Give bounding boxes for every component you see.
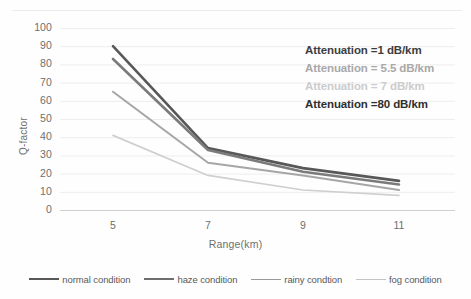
legend-swatch-icon	[29, 278, 59, 280]
legend-label: haze condition	[177, 274, 237, 285]
legend-swatch-icon	[144, 278, 174, 280]
x-axis-title: Range(km)	[0, 238, 471, 250]
plot-area: 1009080706050403020100 57911 Attenuation…	[0, 0, 471, 262]
y-axis-tick-label: 60	[26, 94, 52, 106]
legend-label: fog condition	[389, 274, 442, 285]
attenuation-annotation: Attenuation =1 dB/km	[305, 44, 422, 56]
x-axis-tick-label: 11	[382, 219, 416, 231]
y-axis-tick-label: 20	[26, 167, 52, 179]
legend-item[interactable]: haze condition	[144, 274, 237, 285]
legend-item[interactable]: rainy condtion	[251, 274, 342, 285]
legend-swatch-icon	[251, 279, 281, 280]
y-axis-tick-label: 30	[26, 148, 52, 160]
y-axis-title: Q-factor	[18, 117, 29, 155]
series-line	[113, 59, 399, 185]
legend-item[interactable]: fog condition	[356, 274, 442, 285]
y-axis-tick-label: 90	[26, 39, 52, 51]
y-axis-tick-label: 80	[26, 57, 52, 69]
chart-figure: 1009080706050403020100 57911 Attenuation…	[0, 0, 471, 299]
x-axis-tick-label: 7	[191, 219, 225, 231]
y-axis-tick-label: 10	[26, 185, 52, 197]
chart-legend: normal conditionhaze conditionrainy cond…	[0, 268, 471, 290]
attenuation-annotation: Attenuation = 7 dB/km	[305, 80, 425, 92]
y-axis-tick-label: 0	[26, 203, 52, 215]
legend-label: normal condition	[62, 274, 130, 285]
y-axis-tick-label: 100	[26, 21, 52, 33]
y-axis-tick-label: 40	[26, 130, 52, 142]
x-axis-tick-label: 9	[286, 219, 320, 231]
y-axis-tick-label: 70	[26, 76, 52, 88]
legend-swatch-icon	[356, 279, 386, 280]
y-axis-tick-label: 50	[26, 112, 52, 124]
legend-label: rainy condtion	[284, 274, 342, 285]
attenuation-annotation: Attenuation =80 dB/km	[305, 98, 428, 110]
legend-item[interactable]: normal condition	[29, 274, 130, 285]
x-axis-tick-label: 5	[96, 219, 130, 231]
attenuation-annotation: Attenuation = 5.5 dB/km	[305, 62, 434, 74]
series-line	[113, 135, 399, 195]
